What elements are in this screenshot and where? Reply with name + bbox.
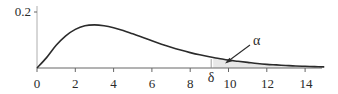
chart-canvas: 0.2 0 2 4 6 8 10 12 14 δ α xyxy=(0,0,338,94)
x-tick-label-6: 6 xyxy=(149,76,156,91)
x-tick-label-4: 4 xyxy=(110,76,117,91)
x-tick-label-0: 0 xyxy=(34,76,41,91)
x-tick-label-12: 12 xyxy=(261,76,274,91)
x-tick-label-14: 14 xyxy=(300,76,314,91)
alpha-label: α xyxy=(253,33,261,48)
x-tick-label-2: 2 xyxy=(72,76,79,91)
y-tick-label-0.2: 0.2 xyxy=(15,4,31,19)
delta-label: δ xyxy=(208,70,215,85)
x-tick-label-8: 8 xyxy=(187,76,194,91)
x-tick-label-10: 10 xyxy=(224,76,237,91)
density-curve xyxy=(37,25,324,68)
x-ticks xyxy=(37,68,305,72)
